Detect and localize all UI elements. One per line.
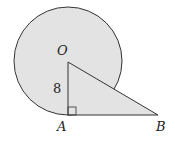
label-point-b: B	[155, 119, 166, 134]
label-point-a: A	[56, 119, 66, 134]
geometry-figure: O 8 A B	[0, 0, 175, 141]
label-point-o: O	[57, 43, 68, 58]
label-segment-oa: 8	[53, 81, 61, 96]
